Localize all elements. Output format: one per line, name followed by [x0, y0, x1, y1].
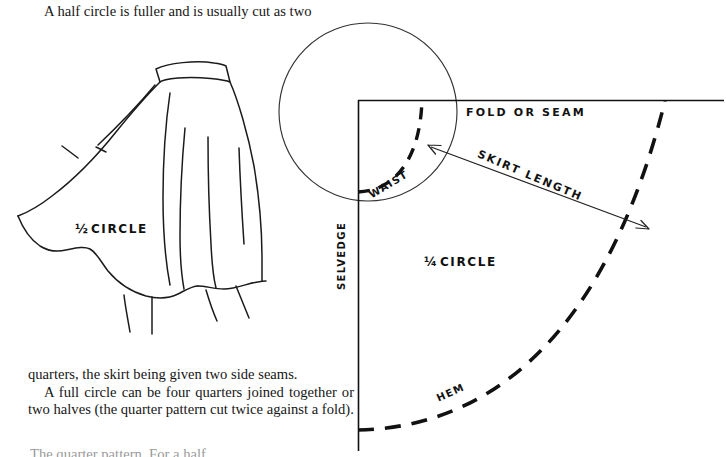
half-circle-skirt-drawing [18, 62, 266, 334]
book-page: A half circle is fuller and is usually c… [0, 0, 726, 457]
label-selvedge: SELVEDGE [336, 222, 347, 290]
skirt-length-arrow [428, 145, 649, 229]
clipped-next-line: The quarter pattern. For a half [30, 446, 360, 457]
full-circle-outline [279, 23, 457, 201]
quarter-fraction: ¼ [424, 254, 437, 269]
label-quarter-circle: ¼CIRCLE [424, 254, 497, 269]
hem-arc [358, 101, 665, 430]
half-circle-word: CIRCLE [91, 222, 148, 236]
paragraph-full-circle: A full circle can be four quarters joine… [28, 384, 354, 419]
half-fraction: ½ [75, 221, 88, 236]
body-paragraphs: quarters, the skirt being given two side… [28, 366, 354, 419]
intro-paragraph: A half circle is fuller and is usually c… [44, 3, 311, 21]
label-fold-or-seam: FOLD OR SEAM [466, 106, 586, 119]
quarter-circle-word: CIRCLE [440, 255, 497, 269]
label-half-circle: ½CIRCLE [75, 221, 148, 236]
paragraph-quarters: quarters, the skirt being given two side… [28, 366, 354, 384]
